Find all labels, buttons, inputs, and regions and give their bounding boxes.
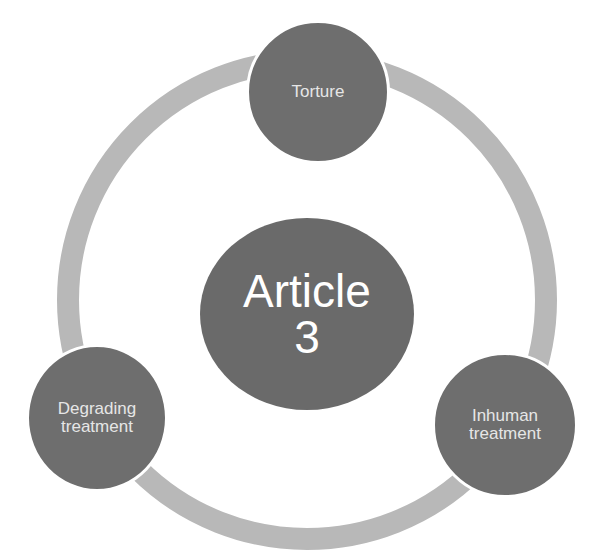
node-torture-label: Torture — [292, 83, 345, 101]
node-inhuman-treatment: Inhuman treatment — [432, 352, 578, 498]
center-node-article-3: Article 3 — [200, 218, 414, 410]
node-torture: Torture — [246, 20, 390, 164]
center-node-label: Article 3 — [243, 268, 371, 360]
node-inhuman-label: Inhuman treatment — [469, 407, 541, 443]
node-degrading-treatment: Degrading treatment — [26, 344, 168, 492]
article-3-cycle-diagram: Article 3 Torture Inhuman treatment Degr… — [0, 0, 610, 551]
node-degrading-label: Degrading treatment — [58, 400, 136, 436]
